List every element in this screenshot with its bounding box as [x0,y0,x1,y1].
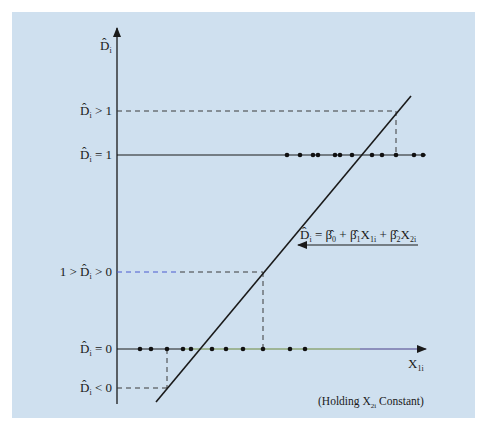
figure-panel [12,12,475,418]
level-label-gt1: D̂i > 1 [80,103,112,120]
level-label-eq0: D̂i = 0 [80,341,112,358]
level-label-eq1: D̂i = 1 [80,147,112,164]
level-label-between: 1 > D̂i > 0 [60,264,112,281]
linear-probability-diagram: D̂i X1i D̂i > 1 D̂i = 1 1 > D̂i > 0 D̂i … [0,0,486,432]
level-label-lt0: D̂i < 0 [80,380,112,397]
